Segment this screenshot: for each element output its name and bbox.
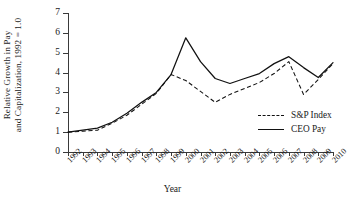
solid-line-icon: [258, 125, 284, 133]
x-axis-title: Year: [0, 184, 345, 194]
dashed-line-icon: [258, 111, 284, 119]
legend-label-ceo-pay: CEO Pay: [291, 122, 326, 136]
legend-item-sp-index: S&P Index: [258, 108, 332, 122]
legend-item-ceo-pay: CEO Pay: [258, 122, 332, 136]
legend-label-sp-index: S&P Index: [291, 108, 332, 122]
chart-legend: S&P Index CEO Pay: [258, 108, 332, 136]
